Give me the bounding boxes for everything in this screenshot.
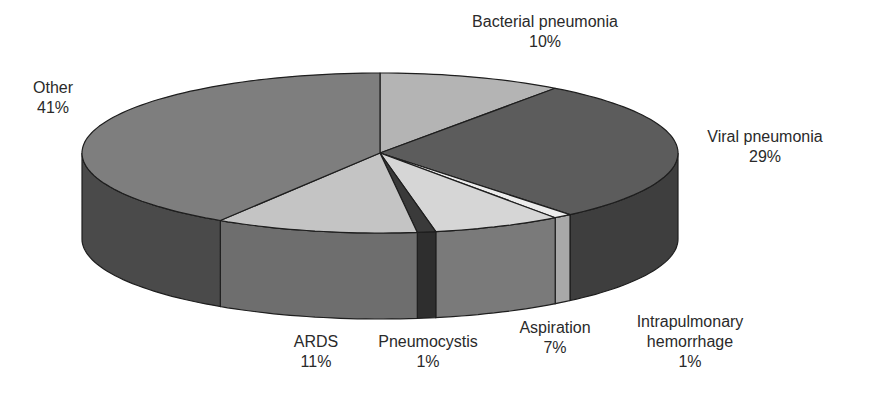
pie-side-pneumocystis (417, 232, 436, 319)
label-pct: 10% (472, 32, 618, 52)
label-pct: 11% (294, 352, 338, 372)
label-text: Other (33, 78, 73, 98)
pie-side-intrapulmonary-hemorrhage (555, 215, 570, 304)
label-text: Aspiration (519, 318, 590, 338)
label-text: Bacterial pneumonia (472, 12, 618, 32)
pie-side-ards (220, 221, 417, 320)
label-text: Pneumocystis (378, 332, 478, 352)
label-text: ARDS (294, 332, 338, 352)
label-pct: 1% (637, 352, 744, 372)
label-pct: 41% (33, 98, 73, 118)
label-pct: 7% (519, 338, 590, 358)
label-pct: 29% (707, 147, 822, 167)
label-ards: ARDS 11% (294, 332, 338, 372)
label-intrapulmonary-hemorrhage: Intrapulmonary hemorrhage 1% (637, 312, 744, 372)
label-text: Viral pneumonia (707, 127, 822, 147)
label-bacterial-pneumonia: Bacterial pneumonia 10% (472, 12, 618, 52)
label-viral-pneumonia: Viral pneumonia 29% (707, 127, 822, 167)
label-pneumocystis: Pneumocystis 1% (378, 332, 478, 372)
label-other: Other 41% (33, 78, 73, 118)
pie-side-aspiration (436, 218, 555, 318)
label-aspiration: Aspiration 7% (519, 318, 590, 358)
label-text: Intrapulmonary (637, 312, 744, 332)
label-text-2: hemorrhage (637, 332, 744, 352)
pie-tops (82, 73, 678, 233)
label-pct: 1% (378, 352, 478, 372)
